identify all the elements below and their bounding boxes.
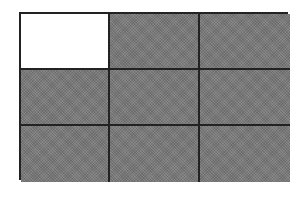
grid-cell-0-2-filled [200, 14, 290, 70]
grid-cell-0-0-empty [21, 14, 110, 70]
grid-cell-1-0-filled [21, 70, 110, 126]
grid-diagram [19, 12, 288, 180]
grid-cell-1-1-filled [110, 70, 200, 126]
grid-cell-1-2-filled [200, 70, 290, 126]
grid-cell-2-0-filled [21, 126, 110, 182]
grid-cell-2-2-filled [200, 126, 290, 182]
grid-cell-2-1-filled [110, 126, 200, 182]
grid-cell-0-1-filled [110, 14, 200, 70]
